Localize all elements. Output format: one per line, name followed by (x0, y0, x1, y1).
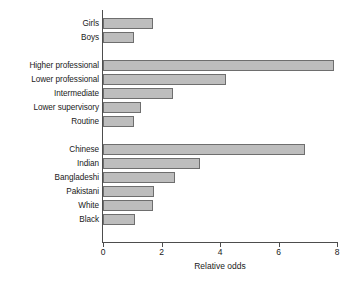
category-label: Chinese (0, 145, 99, 154)
plot-area (103, 10, 337, 242)
bar (103, 74, 226, 85)
category-label: Lower professional (0, 75, 99, 84)
category-label: Boys (0, 33, 99, 42)
bar (103, 32, 134, 43)
bar (103, 200, 153, 211)
category-label: Black (0, 215, 99, 224)
category-label: Indian (0, 159, 99, 168)
relative-odds-bar-chart: GirlsBoysHigher professionalLower profes… (0, 0, 356, 283)
bar (103, 172, 175, 183)
bar (103, 18, 153, 29)
category-label: Routine (0, 117, 99, 126)
x-axis-tick-label: 4 (208, 247, 232, 257)
bar (103, 102, 141, 113)
x-axis-title: Relative odds (103, 261, 337, 272)
category-label: White (0, 201, 99, 210)
bar (103, 186, 154, 197)
bar (103, 144, 305, 155)
category-label: Higher professional (0, 61, 99, 70)
bar (103, 60, 334, 71)
bar (103, 214, 135, 225)
x-axis-tick-label: 2 (150, 247, 174, 257)
category-label: Intermediate (0, 89, 99, 98)
category-label: Lower supervisory (0, 103, 99, 112)
x-axis-tick-label: 6 (267, 247, 291, 257)
x-axis-tick-label: 0 (91, 247, 115, 257)
category-label: Pakistani (0, 187, 99, 196)
y-axis-category-labels: GirlsBoysHigher professionalLower profes… (0, 0, 99, 245)
bar (103, 116, 134, 127)
bar (103, 158, 200, 169)
category-label: Bangladeshi (0, 173, 99, 182)
x-axis-tick-label: 8 (325, 247, 349, 257)
y-axis-line (102, 10, 103, 243)
bar (103, 88, 173, 99)
category-label: Girls (0, 19, 99, 28)
